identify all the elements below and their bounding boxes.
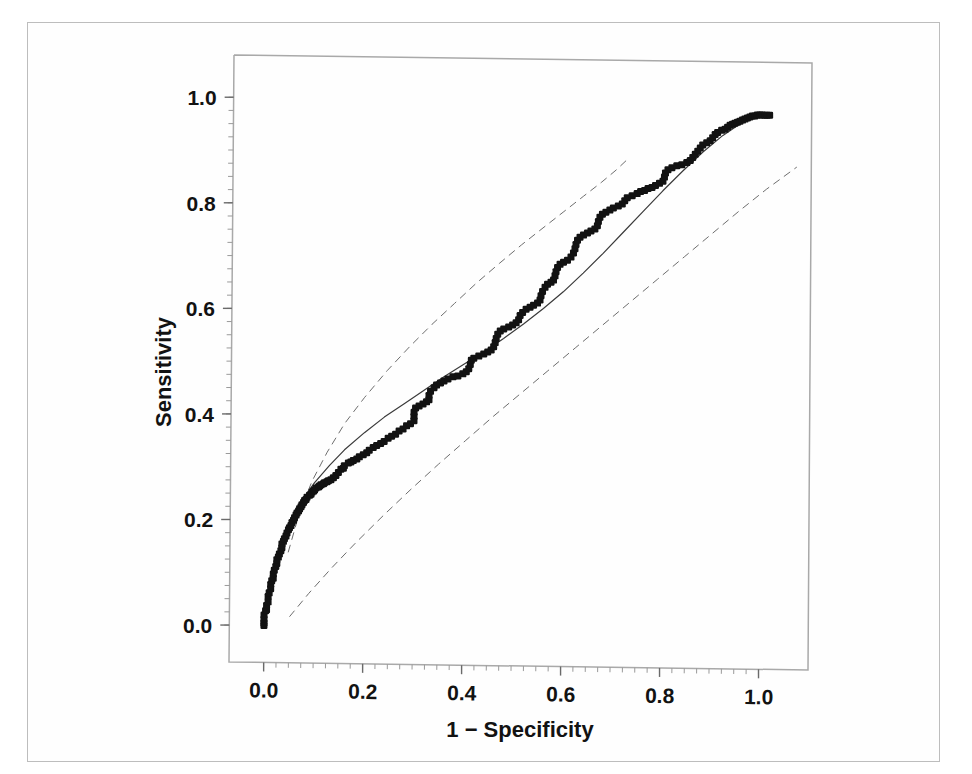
roc-figure: 0.00.20.40.60.81.0 0.00.20.40.60.81.0 1 … — [0, 0, 972, 774]
y-axis-minor-ticks — [224, 97, 233, 625]
y-tick-label: 0.4 — [185, 403, 215, 426]
x-tick-label: 0.0 — [249, 678, 279, 702]
lower-confidence-band — [290, 167, 797, 616]
y-tick-label: 1.0 — [187, 86, 216, 109]
x-axis-title: 1 − Specificity — [446, 717, 594, 742]
x-axis-tick-labels: 0.00.20.40.60.81.0 — [249, 678, 774, 708]
y-axis-title: Sensitivity — [151, 316, 176, 427]
upper-confidence-band — [288, 161, 626, 552]
x-axis-minor-ticks — [264, 662, 759, 674]
x-tick-label: 0.6 — [546, 682, 576, 706]
roc-plot-canvas: 0.00.20.40.60.81.0 0.00.20.40.60.81.0 1 … — [0, 0, 972, 774]
plot-frame — [229, 55, 812, 670]
fitted-roc-curve — [264, 113, 772, 625]
x-tick-label: 1.0 — [744, 685, 774, 709]
x-tick-label: 0.8 — [645, 684, 675, 708]
x-tick-label: 0.4 — [447, 681, 477, 705]
y-tick-label: 0.6 — [186, 297, 215, 320]
x-tick-label: 0.2 — [348, 680, 378, 704]
y-axis-tick-labels: 0.00.20.40.60.81.0 — [183, 86, 217, 637]
roc-data-point — [766, 112, 773, 119]
y-tick-label: 0.2 — [184, 508, 213, 531]
empirical-roc-points — [260, 112, 773, 630]
y-tick-label: 0.8 — [187, 192, 217, 215]
y-tick-label: 0.0 — [183, 614, 212, 637]
